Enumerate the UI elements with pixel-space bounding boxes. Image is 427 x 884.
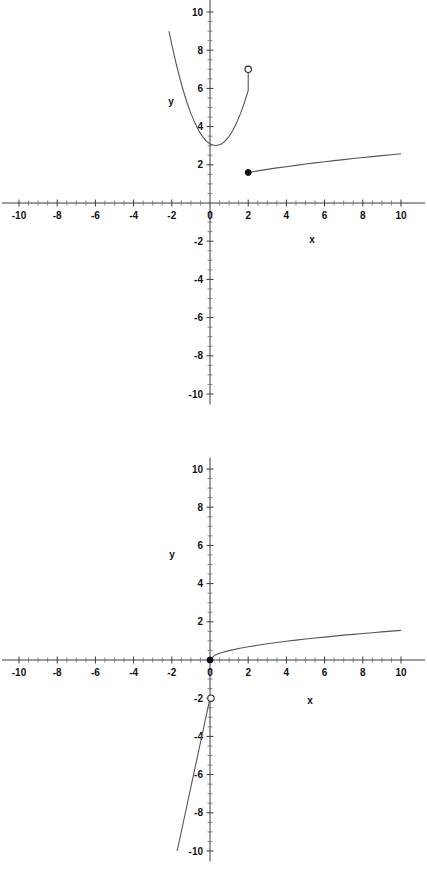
y-axis-tick-label: -10 xyxy=(189,846,204,857)
y-axis-tick-label: -8 xyxy=(194,807,203,818)
x-axis-tick-label: -4 xyxy=(129,210,138,221)
closed-dot-point xyxy=(207,657,213,663)
y-axis-tick-label: 8 xyxy=(197,45,203,56)
x-axis-tick-label: 10 xyxy=(395,210,407,221)
y-axis-tick-label: 8 xyxy=(197,502,203,513)
curve-steep-line-branch xyxy=(177,698,210,851)
x-axis-tick-label: -2 xyxy=(167,210,176,221)
y-axis-tick-label: 4 xyxy=(197,578,203,589)
x-axis-tick-label: 4 xyxy=(284,667,290,678)
open-circle-point xyxy=(245,66,251,72)
x-axis-label: x xyxy=(309,234,315,245)
y-axis-tick-label: 10 xyxy=(192,7,204,18)
y-axis-tick-label: -4 xyxy=(194,274,203,285)
x-axis-label: x xyxy=(307,695,313,706)
curve-sqrt-branch xyxy=(248,154,401,173)
x-axis-tick-label: -8 xyxy=(53,667,62,678)
y-axis-tick-label: 6 xyxy=(197,83,203,94)
upper-graph-panel: -10-8-6-4-20246810-10-8-6-4-2246810xy xyxy=(0,0,427,430)
open-circle-point xyxy=(208,695,214,701)
x-axis-tick-label: 2 xyxy=(245,667,251,678)
lower-coordinate-plane: -10-8-6-4-20246810-10-8-6-4-2246810xy xyxy=(0,430,427,884)
closed-dot-point xyxy=(245,169,251,175)
x-axis-tick-label: 0 xyxy=(207,667,213,678)
x-axis-tick-label: 8 xyxy=(360,667,366,678)
y-axis-tick-label: -8 xyxy=(194,350,203,361)
x-axis-tick-label: -2 xyxy=(167,667,176,678)
x-axis-tick-label: 10 xyxy=(395,667,407,678)
y-axis-tick-label: -6 xyxy=(194,769,203,780)
x-axis-tick-label: 6 xyxy=(322,210,328,221)
x-axis-tick-label: 6 xyxy=(322,667,328,678)
x-axis-tick-label: 4 xyxy=(284,210,290,221)
y-axis-tick-label: -6 xyxy=(194,312,203,323)
x-axis-tick-label: 0 xyxy=(207,210,213,221)
y-axis-tick-label: 2 xyxy=(197,616,203,627)
x-axis-tick-label: -8 xyxy=(53,210,62,221)
y-axis-tick-label: -10 xyxy=(189,389,204,400)
x-axis-tick-label: -4 xyxy=(129,667,138,678)
y-axis-tick-label: 10 xyxy=(192,464,204,475)
x-axis-tick-label: -10 xyxy=(12,667,27,678)
x-axis-tick-label: 8 xyxy=(360,210,366,221)
lower-graph-panel: -10-8-6-4-20246810-10-8-6-4-2246810xy xyxy=(0,430,427,884)
x-axis-tick-label: -10 xyxy=(12,210,27,221)
y-axis-tick-label: -2 xyxy=(194,693,203,704)
upper-coordinate-plane: -10-8-6-4-20246810-10-8-6-4-2246810xy xyxy=(0,0,427,430)
y-axis-label: y xyxy=(168,96,174,107)
y-axis-tick-label: -2 xyxy=(194,236,203,247)
y-axis-tick-label: 2 xyxy=(197,159,203,170)
curve-sqrt-branch xyxy=(210,630,401,660)
y-axis-tick-label: 6 xyxy=(197,540,203,551)
x-axis-tick-label: -6 xyxy=(91,667,100,678)
y-axis-label: y xyxy=(169,549,175,560)
x-axis-tick-label: -6 xyxy=(91,210,100,221)
x-axis-tick-label: 2 xyxy=(245,210,251,221)
